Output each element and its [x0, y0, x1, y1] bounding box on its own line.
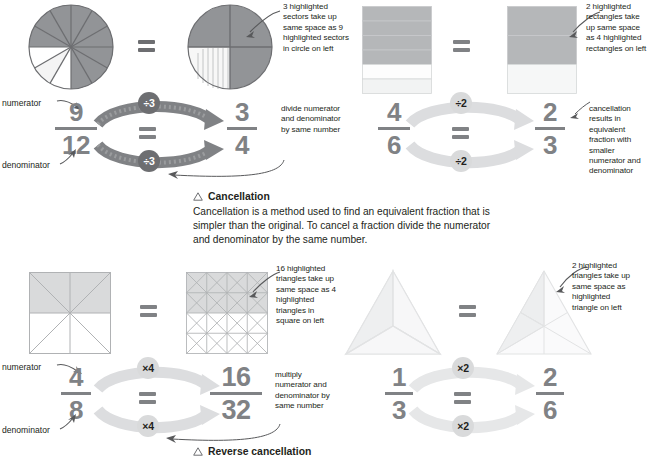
label-numerator-squares: numerator	[2, 362, 41, 372]
op-badge-multiply-bottom-triangles: ×2	[452, 415, 474, 437]
circle-12-sectors-shape	[27, 3, 115, 91]
numerator-value: 2	[531, 365, 569, 389]
label-numerator-circles: numerator	[2, 98, 41, 108]
op-badge-divide-bottom-circles: ÷3	[138, 150, 160, 172]
divide-arrow-top-rectangles	[406, 96, 538, 130]
cancellation-title: Cancellation	[208, 191, 270, 202]
denominator-value: 3	[530, 133, 570, 157]
op-badge-divide-bottom-rectangles: ÷2	[450, 150, 472, 172]
numerator-value: 3	[222, 100, 262, 124]
op-badge-multiply-top-triangles: ×2	[452, 357, 474, 379]
numerator-value: 2	[530, 100, 570, 124]
equals-sign-fraction-triangles	[454, 392, 471, 404]
equals-sign-circles	[138, 40, 155, 52]
annotation-circles: 3 highlighted sectors take up same space…	[283, 2, 351, 54]
side-note-rectangles: cancellation results in equivalent fract…	[589, 104, 648, 177]
cancellation-body: Cancellation is a method used to find an…	[193, 205, 501, 248]
label-denominator-squares: denominator	[2, 425, 50, 435]
annotation-squares: 16 highlighted triangles take up same sp…	[276, 264, 340, 326]
side-note-squares: multiply numerator and denominator by sa…	[275, 370, 337, 412]
equals-sign-fraction-circles	[139, 127, 156, 139]
fraction-2-over-6: 2 6	[531, 365, 569, 422]
reverse-cancellation-title: Reverse cancellation	[208, 446, 311, 457]
callout-arrow-circles	[236, 8, 282, 42]
denominator-value: 6	[531, 398, 569, 422]
fraction-16-over-32: 16 32	[208, 365, 264, 422]
bars-6-svg	[362, 6, 432, 94]
equals-sign-fraction-squares	[139, 392, 156, 404]
equals-sign-triangles	[459, 305, 476, 317]
label-denominator-circles: denominator	[2, 160, 50, 170]
divide-arrow-top-circles	[94, 96, 228, 130]
equals-sign-fraction-rectangles	[452, 127, 469, 139]
numerator-value: 4	[56, 365, 96, 389]
op-badge-divide-top-rectangles: ÷2	[450, 92, 472, 114]
triangle-3-parts-shape	[343, 268, 443, 358]
op-badge-divide-top-circles: ÷3	[138, 92, 160, 114]
multiply-arrow-bottom-triangles	[409, 404, 539, 438]
equals-sign-rectangles	[453, 40, 470, 52]
reverse-cancellation-heading: Reverse cancellation	[193, 446, 311, 457]
side-note-circles: divide numerator and denominator by same…	[281, 104, 343, 135]
multiply-arrow-top-triangles	[409, 361, 539, 395]
cancellation-heading: Cancellation	[193, 191, 270, 202]
fraction-3-over-4: 3 4	[222, 100, 262, 157]
denominator-pointer-arrow-squares	[58, 413, 82, 431]
note-hook-arrow-squares	[156, 422, 282, 446]
denominator-pointer-arrow-circles	[58, 148, 82, 166]
divide-arrow-bottom-rectangles	[406, 139, 538, 173]
op-badge-multiply-top-squares: ×4	[137, 357, 159, 379]
equals-sign-squares	[140, 305, 157, 317]
annotation-rectangles: 2 highlighted rectangles take up same sp…	[586, 2, 648, 54]
square-8-triangles-shape	[29, 272, 111, 354]
circle-12-sectors-svg	[27, 3, 115, 91]
fraction-2-over-3: 2 3	[530, 100, 570, 157]
annotation-triangles: 2 highlighted triangles take up same spa…	[572, 261, 637, 313]
denominator-value: 32	[208, 398, 264, 422]
note-hook-arrow-circles	[158, 158, 286, 182]
denominator-value: 4	[222, 133, 262, 157]
triangle-bullet-icon	[193, 447, 203, 456]
bars-6-parts-shape	[362, 6, 432, 94]
numerator-value: 16	[208, 365, 264, 389]
triangle-bullet-icon	[193, 192, 203, 201]
multiply-arrow-top-squares	[94, 361, 224, 395]
square-8-svg	[29, 272, 111, 354]
numerator-value: 9	[53, 100, 99, 124]
fractions-cancellation-diagram: 3 highlighted sectors take up same space…	[0, 0, 648, 465]
triangle-3-svg	[343, 268, 443, 358]
